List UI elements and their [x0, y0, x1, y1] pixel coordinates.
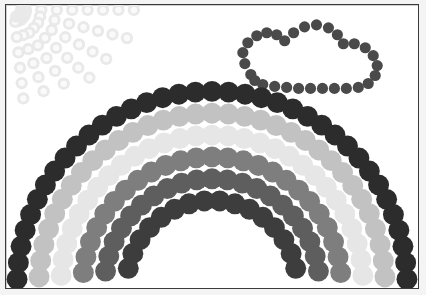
sun-core-dot	[10, 10, 22, 22]
rainbow-dot	[285, 258, 306, 279]
cloud-dot	[281, 82, 292, 93]
sun-ray-dot-highlight	[131, 7, 137, 13]
sun-ray-dot-highlight	[76, 41, 82, 47]
cloud-dot	[363, 78, 374, 89]
sun-ray-dot-highlight	[25, 46, 31, 52]
cloud-dot	[341, 83, 352, 94]
cloud-dot	[269, 81, 280, 92]
cloud-dot	[329, 83, 340, 94]
sun-ray-dot-highlight	[124, 35, 130, 41]
cloud-dot	[338, 38, 349, 49]
sun-ray-dot-highlight	[103, 56, 109, 62]
sun-ray-dot-highlight	[42, 35, 48, 41]
rainbow-dot	[374, 267, 395, 288]
sun-ray-dot-highlight	[100, 7, 106, 13]
sun-ray-dot-highlight	[75, 65, 81, 71]
sun-ray-dot-highlight	[95, 28, 101, 34]
cloud-dot	[261, 27, 272, 38]
artwork-stage: Dotted Rainbow Scene	[0, 0, 426, 295]
sun-ray-dot-highlight	[15, 49, 21, 55]
sun-ray-dot-highlight	[35, 74, 41, 80]
rainbow-arc-group	[7, 81, 418, 288]
sun-with-rays	[9, 5, 140, 105]
rainbow-dot	[396, 269, 417, 288]
sun-ray-dot-highlight	[30, 60, 36, 66]
sun-ray-dot-highlight	[69, 7, 75, 13]
rainbow-dot	[308, 261, 329, 282]
sun-ray-dot-highlight	[43, 55, 49, 61]
cloud-dot	[279, 35, 290, 46]
sun-ray-dot-highlight	[20, 95, 26, 101]
cloud-dot	[293, 83, 304, 94]
cloud-dot	[317, 83, 328, 94]
cloud-dot	[349, 38, 360, 49]
dot-art-canvas	[6, 5, 418, 288]
cloud-dot	[237, 47, 248, 58]
cloud-dot	[299, 21, 310, 32]
sun-ray-dot-highlight	[64, 55, 70, 61]
sun-ray-dot-highlight	[49, 27, 55, 33]
rainbow-dot	[352, 265, 373, 286]
cloud-dot	[353, 82, 364, 93]
cloud-dot	[249, 75, 260, 86]
cloud-dot	[323, 22, 334, 33]
sun-ray-dot-highlight	[109, 31, 115, 37]
rainbow-dot	[330, 262, 351, 283]
cloud-dot	[311, 19, 322, 30]
cloud-dot	[305, 83, 316, 94]
sun-ray-dot-highlight	[18, 80, 24, 86]
sun-ray-dot-highlight	[52, 68, 58, 74]
sun-ray-dot-highlight	[61, 80, 67, 86]
sun-ray-dot-highlight	[89, 48, 95, 54]
sun-ray-dot-highlight	[14, 34, 20, 40]
cloud-dot	[251, 30, 262, 41]
cloud-dot	[372, 60, 383, 71]
cloud-dot	[288, 27, 299, 38]
cloud-dot	[242, 37, 253, 48]
sun-ray-dot-highlight	[86, 75, 92, 81]
sun-ray-dot-highlight	[17, 65, 23, 71]
artwork-frame	[5, 4, 419, 289]
cloud-dot	[239, 58, 250, 69]
sun-ray-dot-highlight	[62, 34, 68, 40]
cloud-outline	[237, 19, 382, 94]
sun-ray-dot-highlight	[54, 7, 60, 13]
sun-ray-dot-highlight	[35, 42, 41, 48]
sun-ray-dot-highlight	[115, 7, 121, 13]
cloud-dot	[360, 42, 371, 53]
sun-ray-dot-highlight	[51, 17, 57, 23]
sun-ray-dot-highlight	[53, 45, 59, 51]
sun-ray-dot-highlight	[66, 20, 72, 26]
sun-ray-dot-highlight	[40, 88, 46, 94]
sun-ray-dot-highlight	[84, 7, 90, 13]
cloud-dot	[368, 50, 379, 61]
sun-ray-dot-highlight	[80, 24, 86, 30]
